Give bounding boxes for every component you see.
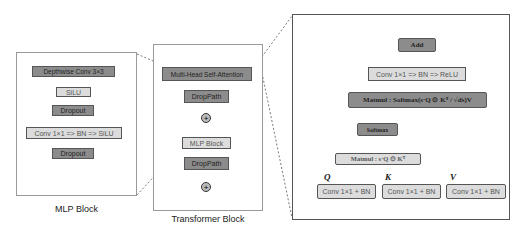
attn-conv-v: Conv 1×1 + BN — [446, 184, 506, 199]
mlp-silu: SiLU — [56, 87, 91, 97]
mlp-depthwise-conv: Depthwise Conv 3×3 — [32, 66, 115, 77]
k-label: K — [385, 172, 391, 182]
attn-matmul-softmax-v: Matmul : Softmax(s·Q ⊙ Kᵀ / √dₖ)V — [348, 92, 487, 108]
attn-softmax: Softmax — [357, 123, 398, 136]
transformer-droppath-1: DropPath — [184, 90, 229, 103]
transformer-block-caption: Transformer Block — [153, 214, 263, 224]
plus-icon: + — [204, 114, 209, 123]
mlp-block-caption: MLP Block — [16, 204, 137, 214]
attn-conv-q: Conv 1×1 + BN — [317, 184, 376, 199]
transformer-mhsa: Multi-Head Self-Attention — [162, 67, 252, 81]
attn-conv-k: Conv 1×1 + BN — [382, 184, 441, 199]
transformer-mlp-block: MLP Block — [182, 137, 231, 149]
q-label: Q — [324, 172, 331, 182]
add-circle-2: + — [201, 182, 211, 192]
add-circle-1: + — [201, 113, 211, 123]
mlp-dropout-1: Dropout — [52, 105, 94, 116]
attn-matmul-qk: Matmul : s·Q ⊙ Kᵀ — [335, 153, 421, 165]
v-label: V — [450, 172, 456, 182]
transformer-droppath-2: DropPath — [184, 157, 229, 170]
mlp-conv-bn-silu: Conv 1×1 => BN => SiLU — [26, 127, 122, 139]
attn-conv-bn-relu: Conv 1×1 => BN => ReLU — [368, 67, 466, 81]
mlp-dropout-2: Dropout — [52, 148, 94, 159]
plus-icon: + — [204, 183, 209, 192]
attn-add: Add — [398, 38, 436, 52]
